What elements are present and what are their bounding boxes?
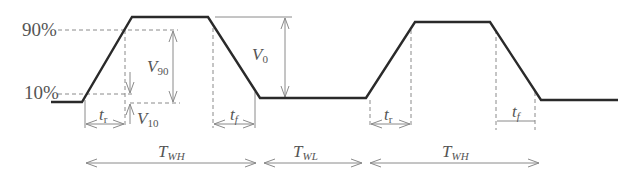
tr2-label: tr xyxy=(384,105,393,125)
twl-label: TWL xyxy=(293,142,318,162)
level-10-label: 10% xyxy=(24,82,59,103)
tr1-label: tr xyxy=(99,105,108,125)
tf2-label: tf xyxy=(512,102,522,122)
v0-label: V0 xyxy=(252,45,268,65)
twh2-label: TWH xyxy=(442,142,470,162)
twh1-label: TWH xyxy=(158,142,186,162)
dimension-arrows xyxy=(86,18,539,163)
pulse-timing-diagram: 90% 10% V90 V10 V0 tr tf tr tf TWH TWL T… xyxy=(0,0,644,179)
tf1-label: tf xyxy=(230,105,240,125)
v10-label: V10 xyxy=(137,109,159,129)
level-90-label: 90% xyxy=(22,19,57,40)
v90-label: V90 xyxy=(147,57,169,77)
